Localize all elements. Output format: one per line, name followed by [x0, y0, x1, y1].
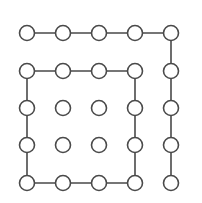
node-layer [20, 26, 179, 191]
node-circle-r5c5 [164, 176, 179, 191]
node-circle-r2c1 [20, 64, 35, 79]
diagram-svg [0, 0, 202, 203]
node-circle-r3c4 [128, 101, 143, 116]
node-circle-r3c5 [164, 101, 179, 116]
node-circle-r1c3 [92, 26, 107, 41]
grid-diagram [0, 0, 202, 203]
node-circle-r5c3 [92, 176, 107, 191]
node-circle-r1c4 [128, 26, 143, 41]
node-circle-r2c2 [56, 64, 71, 79]
node-circle-r1c1 [20, 26, 35, 41]
node-circle-r4c3 [92, 138, 107, 153]
node-circle-r3c3 [92, 101, 107, 116]
node-circle-r1c2 [56, 26, 71, 41]
node-circle-r5c4 [128, 176, 143, 191]
node-circle-r4c4 [128, 138, 143, 153]
node-circle-r5c1 [20, 176, 35, 191]
node-circle-r4c5 [164, 138, 179, 153]
node-circle-r4c2 [56, 138, 71, 153]
node-circle-r3c2 [56, 101, 71, 116]
inner-square-loop [27, 71, 135, 183]
node-circle-r3c1 [20, 101, 35, 116]
node-circle-r2c4 [128, 64, 143, 79]
node-circle-r4c1 [20, 138, 35, 153]
node-circle-r5c2 [56, 176, 71, 191]
node-circle-r2c3 [92, 64, 107, 79]
node-circle-r2c5 [164, 64, 179, 79]
node-circle-r1c5 [164, 26, 179, 41]
